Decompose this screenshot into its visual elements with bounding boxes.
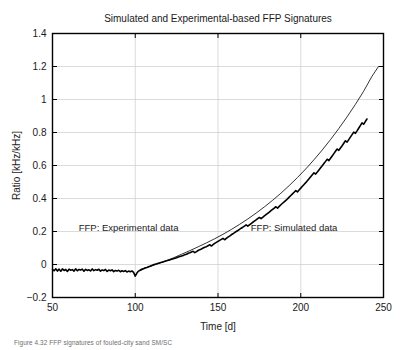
x-tick-label-2: 150 bbox=[210, 302, 227, 313]
y-tick-label-6: 1 bbox=[41, 94, 47, 105]
y-tick-label-0: −0.2 bbox=[27, 292, 47, 303]
chart-title: Simulated and Experimental-based FFP Sig… bbox=[104, 13, 332, 24]
x-tick-label-3: 200 bbox=[292, 302, 309, 313]
y-tick-label-2: 0.2 bbox=[33, 226, 47, 237]
y-tick-label-8: 1.4 bbox=[33, 28, 47, 39]
y-tick-label-1: 0 bbox=[41, 259, 47, 270]
y-tick-label-7: 1.2 bbox=[33, 61, 47, 72]
x-tick-label-0: 50 bbox=[47, 302, 59, 313]
ffp-signature-chart: 50100150200250−0.200.20.40.60.811.21.4Si… bbox=[0, 0, 405, 350]
series-annotation-1: FFP: Simulated data bbox=[251, 222, 338, 233]
figure-caption: Figure 4.32 FFP signatures of fouled-cit… bbox=[14, 339, 394, 350]
y-tick-label-4: 0.6 bbox=[33, 160, 47, 171]
figure-container: 50100150200250−0.200.20.40.60.811.21.4Si… bbox=[0, 0, 405, 350]
series-annotation-0: FFP: Experimental data bbox=[79, 222, 180, 233]
x-tick-label-1: 100 bbox=[127, 302, 144, 313]
y-tick-label-3: 0.4 bbox=[33, 193, 47, 204]
x-axis-title: Time [d] bbox=[200, 321, 236, 332]
y-axis-title: Ratio [kHz/kHz] bbox=[11, 131, 22, 200]
x-tick-label-4: 250 bbox=[375, 302, 392, 313]
y-tick-label-5: 0.8 bbox=[33, 127, 47, 138]
